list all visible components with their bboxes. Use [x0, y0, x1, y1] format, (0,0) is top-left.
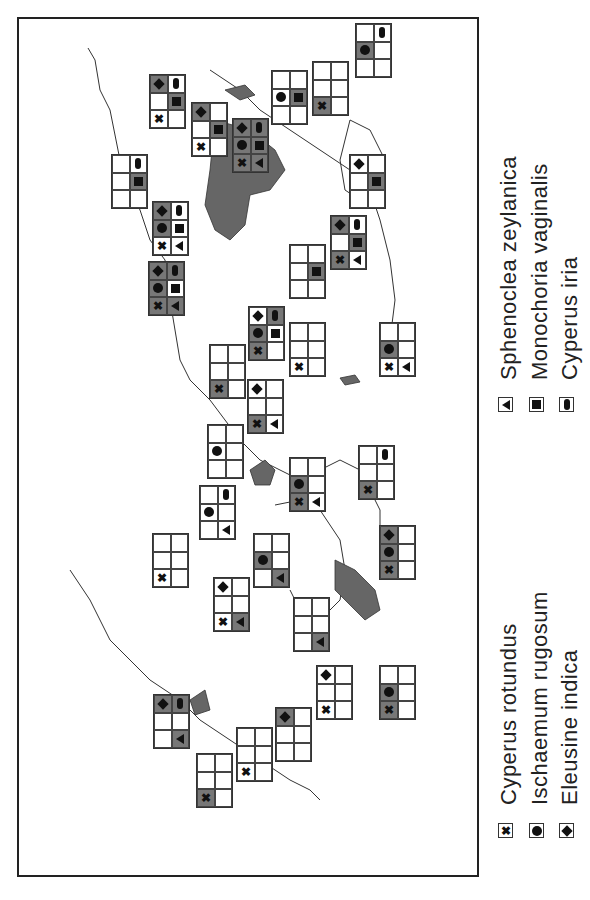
grid-cell — [349, 216, 367, 234]
grid-cell — [167, 297, 185, 315]
grid-cell — [218, 486, 236, 504]
grid-cell — [215, 754, 233, 772]
grid-cell — [214, 578, 232, 596]
grid-cell — [210, 138, 228, 156]
diamond-icon — [251, 383, 262, 394]
grid-cell — [172, 713, 190, 731]
diamond-icon — [334, 219, 345, 230]
grid-cell — [290, 280, 308, 298]
diamond-icon — [157, 698, 168, 709]
circle-icon — [204, 507, 214, 517]
grid-cell — [308, 341, 326, 359]
circle-icon — [157, 223, 167, 233]
grid-cell — [233, 119, 251, 137]
triangle-icon — [171, 301, 179, 311]
grid-cell — [313, 80, 331, 98]
grid-cell — [359, 446, 377, 464]
grid-cell — [272, 89, 290, 107]
grid-cell: ✖ — [317, 701, 335, 719]
grid-cell — [171, 202, 189, 220]
grid-cell — [368, 155, 386, 173]
cross-icon: ✖ — [384, 704, 394, 716]
species-grid-box: ✖ — [152, 533, 189, 588]
grid-cell — [359, 464, 377, 482]
grid-cell: ✖ — [150, 110, 168, 128]
grid-cell — [149, 262, 167, 280]
grid-cell: ✖ — [359, 481, 377, 499]
grid-cell — [228, 345, 246, 363]
grid-cell — [398, 561, 416, 579]
grid-cell — [154, 695, 172, 713]
species-grid-box: ✖ — [247, 379, 284, 434]
grid-cell — [380, 323, 398, 341]
grid-cell — [398, 358, 416, 376]
grid-cell: ✖ — [237, 763, 255, 781]
cross-icon: ✖ — [384, 564, 394, 576]
circle-icon — [258, 555, 268, 565]
grid-cell — [254, 534, 272, 552]
grid-cell — [266, 398, 284, 416]
grid-cell — [215, 789, 233, 807]
grid-cell — [192, 121, 210, 139]
grid-cell — [208, 425, 226, 443]
circle-icon — [360, 45, 370, 55]
cross-icon: ✖ — [321, 704, 331, 716]
grid-cell — [398, 684, 416, 702]
grid-cell — [210, 345, 228, 363]
square-icon — [172, 97, 181, 106]
grid-cell — [200, 504, 218, 522]
grid-cell — [130, 155, 148, 173]
grid-cell — [380, 666, 398, 684]
grid-cell: ✖ — [249, 342, 267, 360]
grid-cell — [377, 464, 395, 482]
circle-icon — [212, 446, 222, 456]
grid-cell — [254, 569, 272, 587]
cross-icon: ✖ — [157, 240, 167, 252]
legend-cross-icon: ✖ — [498, 823, 513, 838]
grid-cell: ✖ — [331, 251, 349, 269]
circle-icon — [384, 687, 394, 697]
grid-cell — [130, 190, 148, 208]
diamond-icon — [156, 205, 167, 216]
oval-icon — [135, 158, 141, 169]
grid-cell — [380, 684, 398, 702]
grid-cell — [218, 504, 236, 522]
cross-icon: ✖ — [335, 254, 345, 266]
diamond-icon — [217, 581, 228, 592]
grid-cell — [290, 263, 308, 281]
grid-cell — [276, 726, 294, 744]
grid-cell — [112, 173, 130, 191]
grid-cell — [171, 237, 189, 255]
grid-cell — [249, 325, 267, 343]
grid-cell — [168, 110, 186, 128]
grid-cell — [335, 684, 353, 702]
triangle-icon — [402, 362, 410, 372]
square-icon — [134, 177, 143, 186]
grid-cell — [248, 380, 266, 398]
grid-cell — [350, 190, 368, 208]
triangle-icon — [176, 734, 184, 744]
grid-cell — [255, 746, 273, 764]
grid-cell — [290, 458, 308, 476]
grid-cell — [294, 726, 312, 744]
grid-cell — [154, 713, 172, 731]
triangle-icon — [222, 525, 230, 535]
grid-cell — [398, 544, 416, 562]
grid-cell — [228, 363, 246, 381]
grid-cell — [349, 251, 367, 269]
grid-cell — [335, 666, 353, 684]
grid-cell: ✖ — [290, 493, 308, 511]
grid-cell — [398, 323, 416, 341]
grid-cell — [267, 307, 285, 325]
grid-cell — [374, 42, 392, 60]
grid-cell — [218, 521, 236, 539]
species-grid-box: ✖ — [191, 102, 228, 157]
grid-cell — [197, 772, 215, 790]
grid-cell — [312, 616, 330, 634]
grid-cell — [308, 280, 326, 298]
grid-cell — [210, 103, 228, 121]
grid-cell — [380, 544, 398, 562]
grid-cell — [171, 534, 189, 552]
triangle-icon — [236, 617, 244, 627]
grid-cell — [171, 569, 189, 587]
